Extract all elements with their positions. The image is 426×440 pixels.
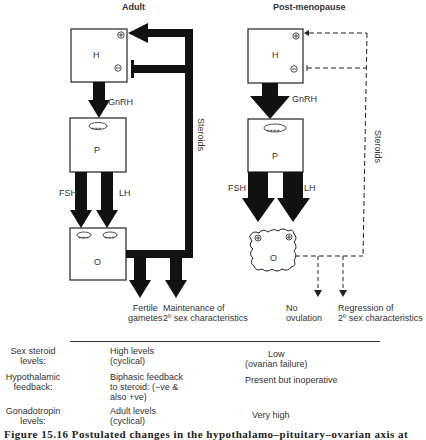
post-title: Post-menopause	[273, 2, 346, 12]
row-adult-sex-steroid: High levels (cyclical)	[110, 346, 154, 366]
row-adult-gonadotropin: Adult levels (cyclical)	[110, 406, 156, 426]
figure-caption: Figure 15.16 Postulated changes in the h…	[4, 428, 408, 440]
adult-ovary-mark-1: +++	[78, 232, 89, 242]
adult-output-2: Maintenance of 2º sex characteristics	[163, 303, 248, 323]
row-adult-hypothalamic: Biphasic feedback to steroid: (−ve & als…	[110, 372, 183, 402]
adult-gnrh-label: GnRH	[108, 97, 133, 107]
adult-output-1: Fertile gametes	[128, 303, 163, 323]
adult-pituitary-mark: +++	[91, 123, 102, 133]
post-output-2: Regression of 2º sex characteristics	[338, 303, 423, 323]
row-label-sex-steroid: Sex steroid levels:	[0, 346, 66, 366]
post-fsh-label: FSH	[228, 183, 246, 193]
adult-p-label: P	[94, 145, 100, 155]
post-o-label: O	[270, 253, 277, 263]
adult-panel	[70, 23, 193, 298]
post-gnrh-label: GnRH	[292, 94, 317, 104]
post-pituitary-mark: ++++	[266, 125, 280, 135]
row-post-gonadotropin: Very high	[252, 410, 290, 420]
adult-ovary-mark-2: +++	[104, 232, 115, 242]
post-p-label: P	[272, 151, 278, 161]
adult-lh-label: LH	[119, 188, 131, 198]
adult-title: Adult	[122, 2, 145, 12]
adult-h-label: H	[93, 50, 100, 60]
post-lh-label: LH	[304, 183, 316, 193]
adult-o-label: O	[94, 257, 101, 267]
post-output-1: No ovulation	[286, 303, 322, 323]
adult-steroids-label: Steroids	[196, 118, 206, 151]
endocrine-axis-diagram	[0, 0, 426, 340]
table-divider	[70, 341, 380, 342]
row-post-hypothalamic: Present but inoperative	[245, 375, 338, 385]
post-steroids-label: Steroids	[373, 130, 383, 163]
post-menopause-panel	[242, 29, 367, 297]
row-label-hypothalamic: Hypothalamic feedback:	[0, 372, 66, 392]
adult-fsh-label: FSH	[59, 188, 77, 198]
row-label-gonadotropin: Gonadotropin levels:	[0, 406, 66, 426]
post-h-label: H	[272, 50, 279, 60]
row-post-sex-steroid: Low (ovarian failure)	[245, 349, 308, 369]
